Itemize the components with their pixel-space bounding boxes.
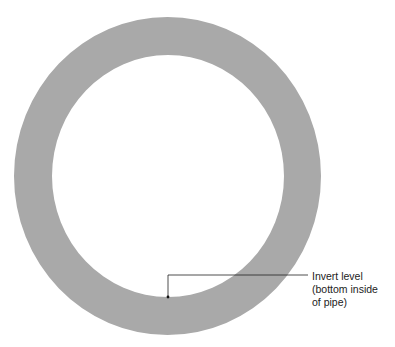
label-line-2: (bottom inside xyxy=(312,283,378,296)
label-line-1: Invert level xyxy=(312,270,378,283)
invert-level-label: Invert level (bottom inside of pipe) xyxy=(312,270,378,309)
label-line-3: of pipe) xyxy=(312,296,378,309)
invert-point xyxy=(167,296,170,299)
pipe-wall xyxy=(14,17,321,335)
